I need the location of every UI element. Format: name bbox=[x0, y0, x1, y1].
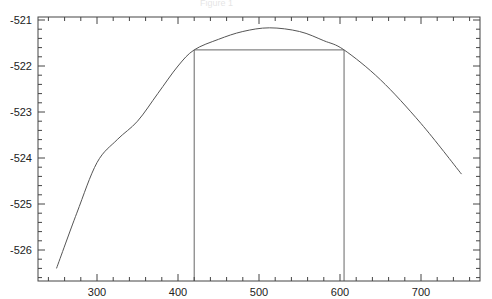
x-tick-label: 700 bbox=[412, 286, 430, 298]
y-tick-label: -523 bbox=[10, 106, 32, 118]
y-axis-ticks: -521-522-523-524-525-526 bbox=[10, 14, 480, 278]
y-tick-label: -525 bbox=[10, 198, 32, 210]
y-tick-label: -521 bbox=[10, 14, 32, 26]
y-tick-label: -522 bbox=[10, 60, 32, 72]
x-tick-label: 500 bbox=[250, 286, 268, 298]
line-chart: Figure 1 300400500600700 -521-522-523-52… bbox=[0, 0, 492, 299]
axes bbox=[38, 17, 480, 281]
y-tick-label: -526 bbox=[10, 244, 32, 256]
y-tick-label: -524 bbox=[10, 152, 32, 164]
series-line bbox=[57, 28, 462, 269]
plot-area bbox=[57, 28, 462, 281]
figure-title: Figure 1 bbox=[200, 0, 233, 8]
x-tick-label: 600 bbox=[331, 286, 349, 298]
x-axis-ticks: 300400500600700 bbox=[48, 17, 469, 298]
x-tick-label: 300 bbox=[88, 286, 106, 298]
x-tick-label: 400 bbox=[169, 286, 187, 298]
plot-frame bbox=[38, 17, 480, 281]
